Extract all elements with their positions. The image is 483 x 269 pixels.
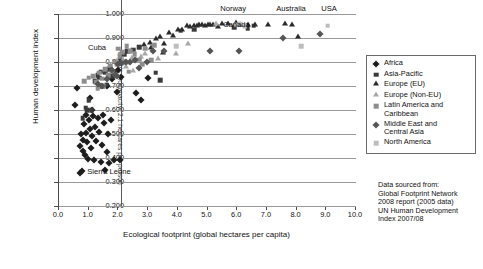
legend-item[interactable]: Middle East andCentral Asia <box>371 120 472 137</box>
data-point <box>97 70 102 75</box>
data-point <box>325 23 330 28</box>
data-point <box>158 78 163 83</box>
chart-figure: Human development index Ecological footp… <box>0 0 483 269</box>
legend-item[interactable]: Africa <box>371 59 472 68</box>
legend-item-label: Asia-Pacific <box>384 70 423 79</box>
data-point <box>107 116 114 123</box>
annotation-usa: USA <box>321 5 337 13</box>
annotation-sierra-leone: Sierra Leone <box>87 168 130 176</box>
annotation-canada: Canada <box>223 21 250 29</box>
legend-marker-square-icon <box>371 70 384 79</box>
data-point <box>89 108 94 113</box>
legend-marker-diamond-icon <box>371 59 384 68</box>
gridline <box>59 206 356 207</box>
data-point <box>153 70 158 75</box>
gridline <box>59 158 356 159</box>
data-point <box>155 55 161 60</box>
data-point <box>299 44 304 49</box>
legend-item[interactable]: Europe (Non-EU) <box>371 91 472 100</box>
gridline <box>59 62 356 63</box>
legend-marker-square-icon <box>371 138 384 147</box>
legend-item[interactable]: Europe (EU) <box>371 80 472 89</box>
plot-area: Earth's biocapacity: 2.1 hectares per pe… <box>58 14 356 207</box>
data-point <box>120 50 125 55</box>
x-axis-label: Ecological footprint (global hectares pe… <box>58 230 355 239</box>
data-point <box>104 131 111 138</box>
y-axis-label: Human development index <box>31 17 40 137</box>
data-point <box>207 48 214 55</box>
source-note-line: Index 2007/08 <box>378 215 482 224</box>
gridline <box>59 110 356 111</box>
data-point <box>100 120 107 127</box>
data-point <box>173 50 179 55</box>
data-point <box>91 74 96 79</box>
data-point <box>104 148 111 155</box>
data-point <box>161 41 167 46</box>
annotation-cuba: Cuba <box>88 44 106 52</box>
legend-item-label: Europe (Non-EU) <box>384 91 441 100</box>
data-point <box>99 141 106 148</box>
data-point <box>174 44 179 49</box>
data-point <box>317 31 324 38</box>
x-axis-tick-label: 10.0 <box>335 211 375 218</box>
legend-marker-triangle-icon <box>371 91 384 100</box>
data-point <box>280 34 287 41</box>
data-point <box>103 67 108 72</box>
data-point <box>73 85 80 92</box>
data-point <box>213 20 219 25</box>
legend-item-label: Latin America andCaribbean <box>384 101 443 118</box>
gridline <box>59 182 356 183</box>
gridline <box>59 38 356 39</box>
data-point <box>252 21 258 26</box>
data-point <box>157 34 163 39</box>
data-point <box>88 145 95 152</box>
legend-item-label: North America <box>384 138 431 147</box>
data-point <box>295 33 301 38</box>
data-point <box>86 98 91 103</box>
data-point <box>80 116 85 121</box>
data-point <box>289 21 295 26</box>
legend-marker-square-icon <box>371 101 384 110</box>
data-point <box>170 32 176 37</box>
legend-marker-triangle-icon <box>371 80 384 89</box>
annotation-norway: Norway <box>220 5 246 13</box>
legend-item[interactable]: North America <box>371 138 472 147</box>
legend: AfricaAsia-PacificEurope (EU)Europe (Non… <box>366 55 476 154</box>
data-point <box>137 97 144 104</box>
data-point <box>126 69 131 74</box>
legend-marker-diamond-icon <box>371 120 384 129</box>
data-point <box>282 21 288 26</box>
legend-item-label: Africa <box>384 59 403 68</box>
data-point <box>235 48 242 55</box>
legend-item[interactable]: Latin America andCaribbean <box>371 101 472 118</box>
data-point <box>142 51 148 56</box>
data-point <box>97 158 104 165</box>
data-point <box>133 89 140 96</box>
gridline <box>59 134 356 135</box>
source-note: Data sourced from:Global Footprint Netwo… <box>378 181 482 224</box>
gridline <box>59 14 356 15</box>
data-point <box>185 41 191 46</box>
legend-item-label: Middle East andCentral Asia <box>384 120 437 137</box>
data-point <box>143 46 148 51</box>
data-point <box>72 102 79 109</box>
legend-item[interactable]: Asia-Pacific <box>371 70 472 79</box>
data-point <box>149 48 156 55</box>
annotation-australia: Australia <box>276 5 306 13</box>
legend-item-label: Europe (EU) <box>384 80 425 89</box>
data-point <box>265 22 271 27</box>
data-point <box>145 75 152 82</box>
